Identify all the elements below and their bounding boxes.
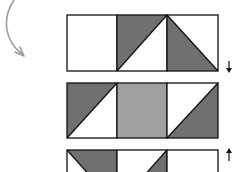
quilt-cell	[117, 83, 167, 138]
curved-arrow-icon	[6, 0, 24, 56]
arrow-down-icon	[226, 61, 232, 73]
quilt-block	[67, 83, 218, 138]
quilt-cell	[117, 150, 167, 172]
quilt-cell	[167, 150, 218, 172]
quilt-cell	[67, 83, 117, 138]
quilt-cell	[167, 83, 218, 138]
quilt-block	[67, 148, 232, 172]
quilt-cell	[67, 15, 117, 71]
quilt-cell	[117, 15, 167, 71]
quilt-block-diagram	[0, 0, 236, 172]
quilt-block	[67, 15, 232, 73]
quilt-cell	[67, 150, 117, 172]
arrow-up-icon	[226, 148, 232, 161]
quilt-cell	[167, 15, 218, 71]
diagram-canvas	[0, 0, 236, 172]
